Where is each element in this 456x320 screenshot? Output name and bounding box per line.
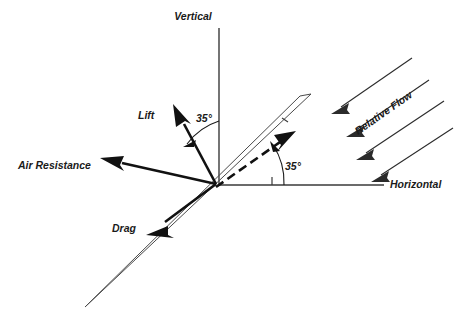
label-angle-chord: 35° xyxy=(285,160,302,172)
flow-arrow-4-shaft xyxy=(381,128,453,175)
axis-horizontal xyxy=(219,177,384,185)
drag-vector-arrowhead xyxy=(146,226,174,238)
airfoil-chord xyxy=(85,94,311,307)
lift-vector-shaft xyxy=(184,124,216,184)
lift-vector-arrowhead xyxy=(173,104,191,127)
air-resistance-vector-shaft xyxy=(122,163,216,184)
diagram-canvas: Vertical Horizontal Lift Air Resistance … xyxy=(0,0,456,320)
air-resistance-vector-arrowhead xyxy=(100,156,124,171)
label-relative-flow: Relative Flow xyxy=(352,88,415,137)
label-horizontal: Horizontal xyxy=(390,178,442,190)
vector-air-resistance xyxy=(100,156,216,184)
label-angle-lift: 35° xyxy=(196,112,213,124)
flow-arrow-3-arrowhead xyxy=(356,149,375,160)
label-lift: Lift xyxy=(138,109,155,121)
label-vertical: Vertical xyxy=(174,10,213,22)
flow-arrow-4-arrowhead xyxy=(371,171,390,182)
aerodynamic-force-diagram: Vertical Horizontal Lift Air Resistance … xyxy=(0,0,456,320)
label-air-resistance: Air Resistance xyxy=(17,159,91,171)
relative-flow-arrows xyxy=(331,58,453,182)
flow-arrow-1-arrowhead xyxy=(331,103,350,114)
flow-arrow-3 xyxy=(356,101,444,160)
flow-arrow-4 xyxy=(371,128,453,182)
airfoil-upper-surface xyxy=(85,94,311,307)
label-drag: Drag xyxy=(112,222,137,234)
vector-drag xyxy=(146,184,216,238)
drag-vector-shaft xyxy=(165,184,216,222)
